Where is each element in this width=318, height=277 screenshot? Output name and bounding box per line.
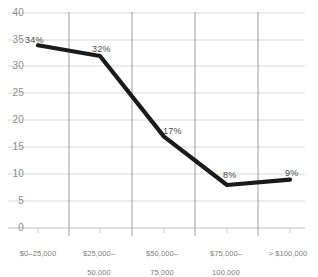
xtick-label-3-line2: 100,000: [212, 268, 240, 277]
xtick-label-2-line1: $50,000–: [146, 249, 178, 258]
xtick-label-0: $0–25,000: [8, 239, 68, 258]
data-label-1: 32%: [92, 44, 111, 54]
ytick-label-20: 20: [4, 115, 24, 125]
xtick-label-2: $50,000– 75,000: [134, 239, 190, 277]
horizontal-gridlines: [8, 13, 305, 201]
data-label-0: 34%: [25, 35, 44, 45]
ytick-label-15: 15: [4, 142, 24, 152]
data-label-4: 9%: [285, 168, 298, 178]
ytick-label-25: 25: [4, 88, 24, 98]
ytick-label-30: 30: [4, 61, 24, 71]
xtick-label-4-line1: > $100,000: [269, 249, 308, 258]
xtick-label-3-line1: $75,000–: [210, 249, 242, 258]
xtick-label-2-line2: 75,000: [150, 268, 174, 277]
xtick-label-1-line2: 50,000: [87, 268, 111, 277]
xtick-label-1: $25,000– 50,000: [71, 239, 127, 277]
ytick-label-40: 40: [4, 8, 24, 18]
ytick-label-10: 10: [4, 169, 24, 179]
xtick-label-4: > $100,000: [259, 239, 317, 258]
ytick-label-0: 0: [4, 223, 24, 233]
xtick-label-3: $75,000– 100,000: [197, 239, 255, 277]
data-label-2: 17%: [163, 126, 182, 136]
ytick-label-5: 5: [4, 196, 24, 206]
ytick-label-35: 35: [4, 35, 24, 45]
axis-ticks: [38, 228, 290, 233]
xtick-label-1-line1: $25,000–: [83, 249, 115, 258]
data-label-3: 8%: [223, 170, 236, 180]
xtick-label-0-line1: $0–25,000: [20, 249, 56, 258]
